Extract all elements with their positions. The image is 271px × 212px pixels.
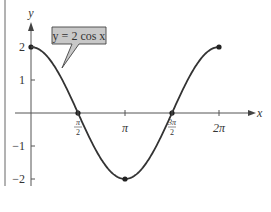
y-tick-label: −2: [12, 172, 25, 186]
x-axis-arrow: [248, 110, 256, 116]
marked-point: [122, 176, 127, 181]
marked-point: [216, 44, 221, 49]
y-tick-label: −1: [12, 139, 25, 153]
y-axis-arrow: [28, 22, 34, 31]
x-tick-label-numerator: 3π: [167, 118, 177, 127]
chart: π2π3π22π21−1−2 y = 2 cos x y x: [0, 0, 271, 212]
function-label: y = 2 cos x: [53, 29, 106, 43]
x-axis-label: x: [256, 106, 263, 120]
x-tick-label: 2π: [213, 121, 226, 135]
x-tick-label: π: [122, 121, 129, 135]
function-callout: y = 2 cos x: [52, 27, 106, 68]
y-tick-label: 2: [19, 40, 25, 54]
x-tick-label-denominator: 2: [76, 128, 80, 137]
y-tick-label: 1: [19, 73, 25, 87]
x-tick-label-denominator: 2: [170, 128, 174, 137]
y-axis-label: y: [27, 6, 34, 20]
